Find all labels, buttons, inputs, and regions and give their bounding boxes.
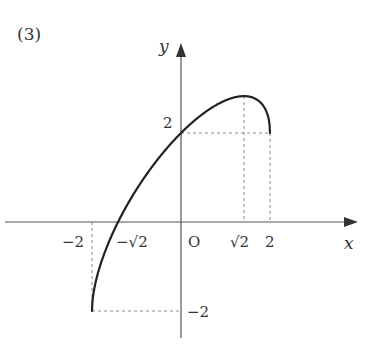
y-tick-neg2: −2 (187, 303, 209, 321)
origin-label: O (188, 233, 200, 251)
x-tick-neg-sqrt2: −√2 (116, 233, 148, 251)
function-graph-figure: (3) y x O −2 −√2 √2 2 2 −2 (0, 0, 383, 350)
problem-label: (3) (17, 24, 41, 44)
y-axis-label: y (158, 36, 169, 56)
x-axis-label: x (344, 233, 354, 253)
x-tick-2: 2 (265, 233, 275, 251)
x-tick-sqrt2: √2 (230, 233, 249, 251)
y-axis-arrow-icon (176, 43, 186, 57)
x-axis-arrow-icon (344, 217, 358, 227)
axes (5, 50, 352, 338)
x-tick-neg2: −2 (62, 233, 84, 251)
y-tick-2: 2 (163, 114, 173, 132)
